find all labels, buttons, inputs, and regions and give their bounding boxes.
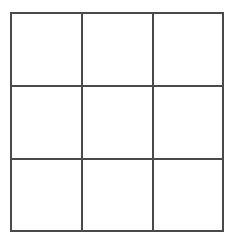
grid-cell-r3c3[interactable] <box>153 159 223 231</box>
grid-cell-r3c1-value <box>12 160 81 230</box>
grid-cell-r1c3[interactable] <box>153 13 223 86</box>
grid-cell-r3c3-value <box>154 160 222 230</box>
grid-cell-r1c1-value <box>12 14 81 85</box>
grid-row-1 <box>11 13 223 86</box>
grid-cell-r2c3-value <box>154 87 222 158</box>
grid-row-3 <box>11 159 223 231</box>
grid-cell-r3c2-value <box>83 160 152 230</box>
grid-cell-r2c1-value <box>12 87 81 158</box>
grid-cell-r2c1[interactable] <box>11 86 82 159</box>
grid-cell-r3c1[interactable] <box>11 159 82 231</box>
grid-cell-r1c2-value <box>83 14 152 85</box>
grid-cell-r1c1[interactable] <box>11 13 82 86</box>
grid-cell-r3c2[interactable] <box>82 159 153 231</box>
grid-cell-r2c2-value <box>83 87 152 158</box>
grid-cell-r1c2[interactable] <box>82 13 153 86</box>
grid-canvas <box>0 0 230 239</box>
three-by-three-grid <box>10 12 224 232</box>
grid-cell-r2c3[interactable] <box>153 86 223 159</box>
grid-cell-r1c3-value <box>154 14 222 85</box>
grid-cell-r2c2[interactable] <box>82 86 153 159</box>
grid-row-2 <box>11 86 223 159</box>
